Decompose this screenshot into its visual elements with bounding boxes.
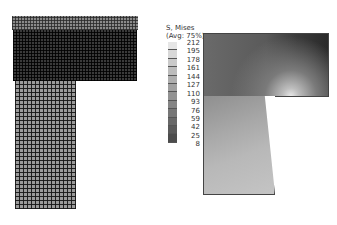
legend-value: 110 <box>184 90 200 98</box>
contour-top-block <box>203 33 329 97</box>
legend-value: 8 <box>184 140 200 148</box>
legend-value: 144 <box>184 73 200 81</box>
legend-swatch <box>168 59 177 67</box>
legend-swatch <box>168 50 177 58</box>
legend-swatch <box>168 92 177 100</box>
legend-value: 195 <box>184 47 200 55</box>
stress-legend: S, Mises (Avg: 75%) 21219517816114412711… <box>166 24 205 40</box>
legend-swatch <box>168 42 177 50</box>
legend-value: 127 <box>184 81 200 89</box>
legend-value: 25 <box>184 132 200 140</box>
legend-swatch <box>168 101 177 109</box>
legend-color-bar <box>168 42 177 143</box>
mesh-vertical-block <box>15 81 76 209</box>
contour-vertical-block <box>203 96 275 195</box>
legend-value: 42 <box>184 123 200 131</box>
legend-title: S, Mises <box>166 24 205 32</box>
legend-swatch <box>168 109 177 117</box>
legend-swatch <box>168 76 177 84</box>
legend-swatch <box>168 134 177 142</box>
legend-value: 59 <box>184 115 200 123</box>
legend-value: 212 <box>184 39 200 47</box>
legend-value: 93 <box>184 98 200 106</box>
legend-swatch <box>168 84 177 92</box>
legend-swatch <box>168 67 177 75</box>
legend-value: 76 <box>184 107 200 115</box>
legend-swatch <box>168 126 177 134</box>
mesh-top-strip <box>12 16 138 30</box>
legend-swatch <box>168 118 177 126</box>
legend-value: 178 <box>184 56 200 64</box>
legend-value: 161 <box>184 64 200 72</box>
legend-labels: 21219517816114412711093765942258 <box>184 39 200 149</box>
